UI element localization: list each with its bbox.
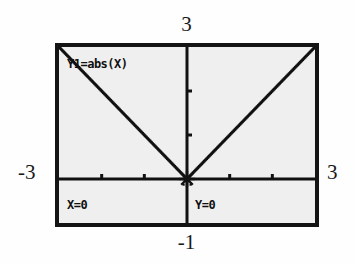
cursor-speck	[183, 184, 185, 186]
calculator-screenshot: 3 -3 3 -1 Y1=abs(X) X=0 Y=0	[0, 0, 355, 264]
y-value-readout: Y=0	[195, 199, 215, 211]
calculator-display[interactable]: Y1=abs(X) X=0 Y=0	[55, 43, 319, 227]
y-max-label: 3	[9, 14, 355, 35]
function-expression-label: Y1=abs(X)	[67, 58, 128, 70]
graph-plot-area[interactable]	[59, 47, 315, 223]
cursor-speck	[190, 184, 192, 186]
curve-point	[314, 47, 315, 48]
axes-group	[59, 47, 315, 223]
y-min-label: -1	[9, 232, 355, 253]
x-max-label: 3	[327, 162, 338, 183]
trace-cursor-marker	[179, 171, 195, 187]
x-value-readout: X=0	[67, 199, 87, 211]
trace-cursor[interactable]	[179, 171, 195, 187]
x-min-label: -3	[18, 162, 36, 183]
cursor-core	[184, 176, 190, 182]
